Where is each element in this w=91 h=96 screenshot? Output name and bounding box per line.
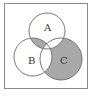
label-c: C [60, 55, 68, 66]
label-a: A [43, 22, 52, 33]
label-b: B [28, 55, 35, 66]
venn-diagram: A B C [0, 0, 91, 96]
